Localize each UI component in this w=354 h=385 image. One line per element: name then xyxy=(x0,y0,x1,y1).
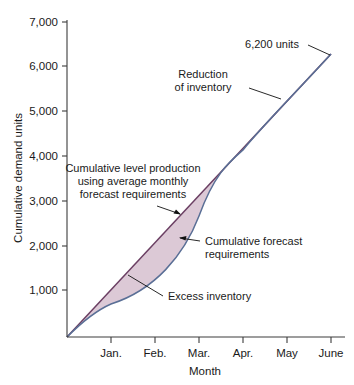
forecast-requirements-label-line2: requirements xyxy=(205,248,270,260)
y-tick-label-2000: 2,000 xyxy=(29,240,58,252)
x-tick-label-june: June xyxy=(319,347,344,359)
y-tick-label-4000: 4,000 xyxy=(29,150,58,162)
x-tick-label-jan: Jan. xyxy=(100,347,122,359)
x-tick-label-may: May xyxy=(276,347,298,359)
y-tick-label-6000: 6,000 xyxy=(29,60,58,72)
level-production-label-line2: using average monthly xyxy=(78,175,189,187)
reduction-of-inventory-label-line1: Reduction xyxy=(178,68,228,80)
excess-inventory-label: Excess inventory xyxy=(168,290,252,302)
y-axis-title: Cumulative demand units xyxy=(12,113,24,243)
x-tick-label-apr: Apr. xyxy=(233,347,253,359)
cumulative-production-chart: 7,000 6,000 5,000 4,000 3,000 2,000 1,00… xyxy=(0,0,354,385)
reduction-of-inventory-leader-line xyxy=(249,88,281,99)
level-production-label-line1: Cumulative level production xyxy=(65,162,200,174)
reduction-of-inventory-label-line2: of inventory xyxy=(175,81,232,93)
forecast-requirements-label-line1: Cumulative forecast xyxy=(205,235,302,247)
x-axis-title: Month xyxy=(189,365,221,377)
x-tick-label-mar: Mar. xyxy=(188,347,210,359)
level-production-arrowhead xyxy=(174,210,182,215)
x-tick-label-feb: Feb. xyxy=(143,347,166,359)
level-production-label-line3: forecast requirements xyxy=(80,188,187,200)
chart-canvas: 7,000 6,000 5,000 4,000 3,000 2,000 1,00… xyxy=(0,0,354,385)
y-tick-label-7000: 7,000 xyxy=(29,16,58,28)
endpoint-leader-line xyxy=(308,45,330,55)
y-tick-label-5000: 5,000 xyxy=(29,105,58,117)
y-tick-label-3000: 3,000 xyxy=(29,195,58,207)
y-axis-ticks xyxy=(62,22,67,290)
y-tick-label-1000: 1,000 xyxy=(29,284,58,296)
x-axis-ticks xyxy=(111,337,331,343)
endpoint-label: 6,200 units xyxy=(245,38,299,50)
